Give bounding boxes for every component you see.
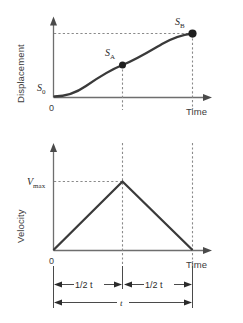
figure-canvas: SA SB S0 0 Time Displacement [0,0,243,323]
displacement-x-axis [54,94,213,101]
displacement-s0-label: S0 [37,82,46,96]
point-sb-label: SB [175,16,185,30]
velocity-chart: Vmax 0 Time Velocity [15,143,212,270]
velocity-x-axis [54,247,213,254]
displacement-y-axis [50,17,57,98]
dim-half-left-label: 1/2 t [75,280,93,290]
displacement-chart: SA SB S0 0 Time Displacement [15,16,212,117]
physics-figure: SA SB S0 0 Time Displacement [0,0,243,323]
velocity-yaxis-title: Velocity [15,209,26,243]
dimension-annotations: 1/2 t 1/2 t t [54,266,193,309]
displacement-yaxis-title: Displacement [15,44,26,103]
velocity-xaxis-title: Time [186,259,207,270]
dim-half-right: 1/2 t [124,278,192,291]
dim-total: t [54,296,192,309]
velocity-vmax-label: Vmax [27,176,46,190]
displacement-origin-label: 0 [49,103,54,113]
velocity-origin-label: 0 [49,256,54,266]
dim-half-left: 1/2 t [54,278,122,291]
displacement-xaxis-title: Time [186,106,207,117]
point-sb-marker [188,29,196,37]
dim-half-right-label: 1/2 t [145,280,163,290]
velocity-y-axis [50,143,57,251]
point-sa-label: SA [105,47,115,61]
point-sa-marker [119,62,126,69]
